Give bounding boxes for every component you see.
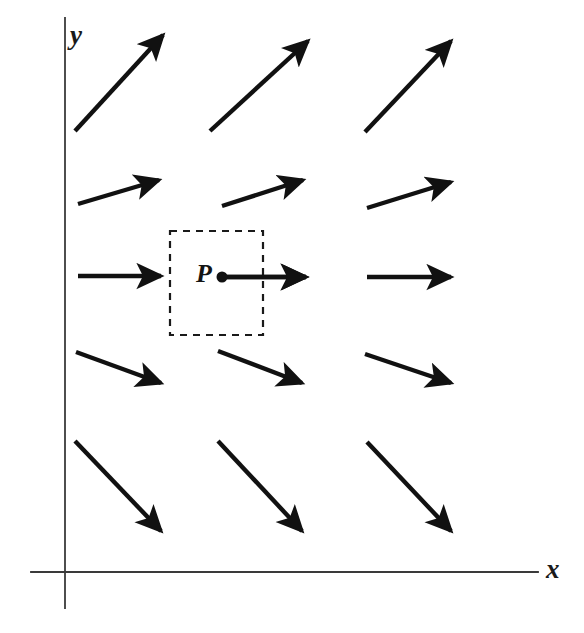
vector-field-figure: y x P — [0, 0, 584, 633]
point-p-dot — [217, 272, 228, 283]
point-p-group — [217, 272, 307, 283]
dashed-region — [170, 231, 263, 335]
field-vector-r2-c2 — [222, 180, 303, 206]
field-vector-r1-c3 — [365, 41, 451, 132]
field-vector-r5-c1 — [75, 441, 161, 531]
field-vector-r4-c2 — [218, 351, 302, 383]
field-vector-r5-c2 — [218, 441, 302, 531]
x-axis-label: x — [546, 556, 560, 583]
field-vector-r2-c3 — [367, 182, 451, 208]
vector-field-canvas — [0, 0, 584, 633]
y-axis-label: y — [70, 22, 82, 49]
field-vector-r2-c1 — [78, 180, 159, 204]
axes — [31, 18, 538, 608]
field-vector-r1-c2 — [210, 41, 308, 131]
point-p-label: P — [196, 261, 212, 287]
field-vector-r5-c3 — [367, 442, 451, 531]
field-vector-r4-c1 — [76, 352, 161, 383]
field-vector-r1-c1 — [75, 35, 163, 131]
field-vector-r4-c3 — [365, 354, 451, 383]
